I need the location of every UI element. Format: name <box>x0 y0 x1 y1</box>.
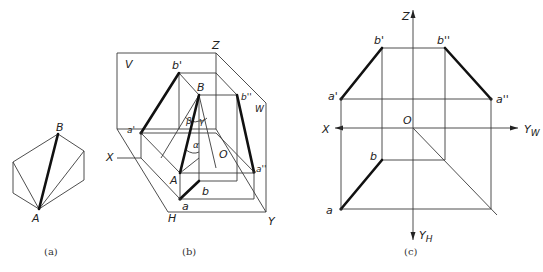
label-Z: Z <box>401 10 410 23</box>
label-O: O <box>403 114 412 127</box>
label-Yh: YH <box>419 229 433 244</box>
proj-b-prime-to-B <box>179 73 199 95</box>
line-AB-space <box>180 95 199 173</box>
label-b-prime: b' <box>172 59 182 72</box>
point-a-prime <box>139 131 142 134</box>
panel-a: B A (a) <box>13 121 84 257</box>
point-a-prime <box>339 97 342 100</box>
z-axis-arrow-icon <box>411 10 416 18</box>
line-AB <box>39 134 58 209</box>
projection-figure: B A (a) <box>0 0 543 272</box>
line-ab-horizontal <box>180 181 199 199</box>
proj-b-prime-to-w <box>216 73 237 95</box>
label-X: X <box>321 123 330 136</box>
label-alpha: α <box>193 140 199 150</box>
point-a-dprime <box>489 97 492 100</box>
line-a-b <box>341 160 382 209</box>
label-X: X <box>105 151 114 164</box>
yw-axis-arrow-icon <box>510 126 518 131</box>
label-B: B <box>56 121 64 134</box>
label-A: A <box>169 174 178 187</box>
point-a <box>339 207 342 210</box>
label-B: B <box>197 81 205 94</box>
yh-axis-arrow-icon <box>411 232 416 240</box>
line-a-dprime-b-dprime <box>237 95 254 172</box>
line-a-prime-b-prime <box>341 48 382 99</box>
label-a-dprime: a'' <box>256 164 266 174</box>
miter-line-45 <box>413 128 497 215</box>
caption-a: (a) <box>44 246 58 257</box>
angle-ray-gamma <box>199 95 216 168</box>
w-plane <box>216 53 266 212</box>
label-b-dprime: b'' <box>241 92 252 102</box>
label-Yw: YW <box>524 123 541 138</box>
arc-alpha <box>186 150 199 153</box>
diagonal-a-left <box>13 162 39 209</box>
label-beta: β <box>185 116 192 126</box>
label-b-prime: b' <box>374 34 384 47</box>
label-b: b <box>202 185 209 198</box>
label-b: b <box>370 150 377 163</box>
label-a-dprime: a'' <box>496 93 509 106</box>
caption-b: (b) <box>182 246 196 257</box>
label-gamma: γ <box>199 116 205 126</box>
line-b-dprime-a-dprime <box>445 48 491 99</box>
label-H: H <box>168 212 176 225</box>
label-a-prime: a' <box>328 90 338 103</box>
line-a-prime-b-prime <box>141 73 179 133</box>
label-Y: Y <box>268 215 276 228</box>
panel-b: V Z W X O H Y b' B b'' a' a'' A b a β γ … <box>105 39 276 257</box>
label-a: a <box>326 204 333 217</box>
label-a: a <box>182 200 189 213</box>
label-a-prime: a' <box>127 125 135 135</box>
label-O: O <box>219 148 228 161</box>
panel-c: Z X O YW YH b' b'' a' a'' b a (c) <box>321 10 541 257</box>
label-A: A <box>31 212 40 225</box>
label-V: V <box>125 58 134 71</box>
label-b-dprime: b'' <box>437 34 450 47</box>
x-axis-arrow-icon <box>335 126 343 131</box>
label-Z: Z <box>211 39 220 52</box>
caption-c: (c) <box>404 246 418 257</box>
h-plane <box>117 129 266 212</box>
label-W: W <box>255 104 265 114</box>
proj-a-prime-to-A <box>141 133 180 173</box>
